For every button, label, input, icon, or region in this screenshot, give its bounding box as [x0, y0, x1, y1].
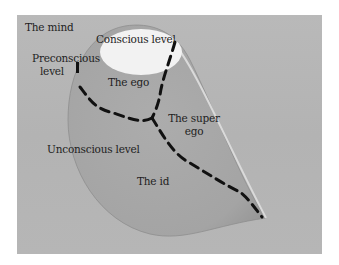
label-preconscious-line2: level	[30, 65, 74, 77]
label-the-id: The id	[137, 175, 169, 187]
label-the-super-line1: The super	[166, 112, 222, 124]
label-the-ego: The ego	[108, 76, 149, 88]
title-the-mind: The mind	[25, 21, 74, 33]
label-conscious-level: Conscious level	[96, 33, 176, 45]
label-unconscious-level: Unconscious level	[47, 143, 140, 155]
label-the-super-line2: ego	[166, 125, 222, 137]
label-preconscious-line1: Preconscious	[30, 52, 102, 64]
